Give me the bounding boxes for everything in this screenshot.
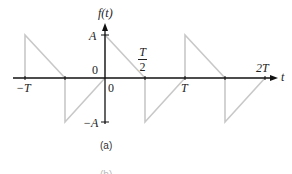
x-tick-neg-T: −T	[16, 82, 31, 94]
half-T-numerator: T	[139, 46, 146, 58]
x-axis-label: t	[281, 71, 284, 83]
x-tick-T: T	[181, 82, 188, 94]
figure-caption: (a)	[100, 140, 112, 151]
half-T-denominator: 2	[140, 61, 146, 73]
x-tick-half-T: T 2	[138, 46, 147, 73]
y-tick-neg-A: −A	[83, 117, 98, 129]
sawtooth-diagram	[0, 0, 292, 174]
f-axis-arrow-icon	[102, 23, 108, 31]
t-axis-arrow-icon	[270, 75, 278, 81]
y-tick-A: A	[89, 30, 96, 42]
y-axis-label: f(t)	[98, 7, 113, 19]
origin-label-lower: 0	[108, 82, 114, 94]
origin-label-upper: 0	[92, 64, 98, 76]
next-figure-caption-partial: (b)	[100, 169, 112, 174]
x-tick-2T: 2T	[256, 62, 269, 74]
